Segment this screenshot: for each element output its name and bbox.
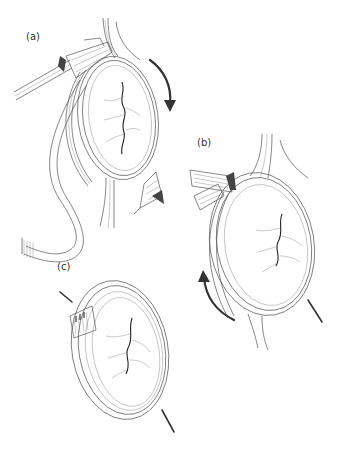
panel-b-drawing	[190, 134, 326, 350]
panel-c-drawing	[60, 273, 179, 432]
surgical-illustration	[0, 0, 344, 450]
panel-a-drawing	[14, 18, 176, 262]
